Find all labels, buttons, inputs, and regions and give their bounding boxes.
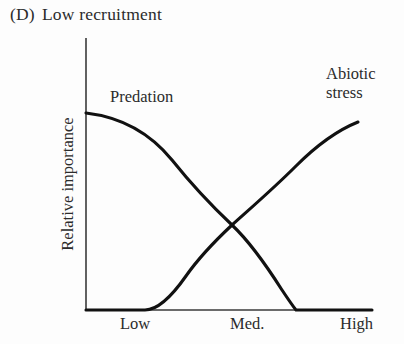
abiotic-stress-curve-label: Abiotic stress bbox=[326, 64, 376, 102]
abiotic-label-line2: stress bbox=[326, 83, 376, 102]
x-tick-high-text: High bbox=[340, 314, 373, 334]
predation-curve bbox=[86, 113, 372, 310]
predation-curve-label: Predation bbox=[110, 87, 173, 106]
x-tick-med-text: Med. bbox=[230, 314, 264, 334]
x-tick-low-text: Low bbox=[120, 314, 150, 334]
figure-panel: (D)Low recruitment Relative importance L… bbox=[0, 0, 404, 344]
abiotic-label-line1: Abiotic bbox=[326, 64, 376, 83]
plot-canvas bbox=[0, 0, 404, 344]
